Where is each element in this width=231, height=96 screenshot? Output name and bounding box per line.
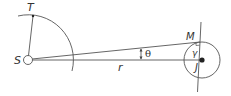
label-t: T bbox=[27, 1, 35, 14]
label-m: M bbox=[186, 31, 195, 42]
label-gamma: γ bbox=[192, 48, 198, 58]
theta-arrow-down-icon bbox=[140, 57, 143, 60]
diagram-canvas: S T r θ M γ J bbox=[0, 0, 231, 96]
orbit-diagram: S T r θ M γ J bbox=[0, 0, 231, 96]
line-through-m-j bbox=[198, 22, 202, 92]
label-theta: θ bbox=[145, 48, 151, 59]
point-t bbox=[32, 15, 34, 17]
point-j bbox=[199, 57, 204, 62]
line-s-m bbox=[32, 42, 200, 59]
label-r: r bbox=[118, 61, 124, 74]
line-s-t bbox=[28, 16, 33, 60]
sun-circle bbox=[24, 56, 33, 65]
theta-arrow-up-icon bbox=[140, 49, 143, 52]
label-j: J bbox=[193, 62, 198, 73]
label-s: S bbox=[14, 54, 21, 67]
